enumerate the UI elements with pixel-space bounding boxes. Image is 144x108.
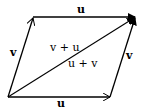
label-v-left: v: [9, 46, 17, 59]
label-u-plus-v: u + v: [68, 57, 98, 70]
parallelogram-diagram: u v v u v + u u + v: [0, 0, 144, 108]
label-v-plus-u: v + u: [49, 41, 80, 54]
label-u-top: u: [77, 3, 85, 16]
label-u-bottom: u: [57, 97, 65, 108]
label-v-right: v: [125, 49, 133, 62]
